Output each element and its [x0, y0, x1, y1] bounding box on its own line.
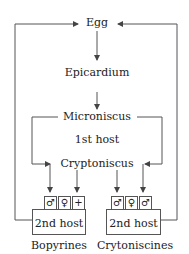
stage-cryptoniscus: Cryptoniscus [59, 158, 134, 170]
second-host-label: 2nd host [107, 217, 160, 230]
second-host-box-crytoniscines: 2nd host [106, 209, 161, 235]
male-symbol-icon: ♂ [111, 196, 124, 210]
group-name-bopyrines: Bopyrines [30, 240, 88, 252]
first-host-label: 1st host [74, 134, 120, 146]
attached-symbol-icon: + [72, 196, 85, 210]
female-symbol-icon: ♀ [58, 196, 71, 210]
stage-egg: Egg [85, 17, 109, 29]
right-bracket [137, 117, 162, 164]
second-host-label: 2nd host [33, 217, 85, 230]
second-host-box-bopyrines: 2nd host [32, 209, 86, 235]
stage-microniscus: Microniscus [62, 111, 132, 123]
stage-epicardium: Epicardium [64, 67, 131, 79]
male-symbol-icon: ♂ [139, 196, 152, 210]
male-symbol-icon: ♂ [44, 196, 57, 210]
left-bracket [32, 117, 58, 164]
female-symbol-icon: ♀ [125, 196, 138, 210]
group-name-crytoniscines: Crytoniscines [96, 240, 174, 252]
